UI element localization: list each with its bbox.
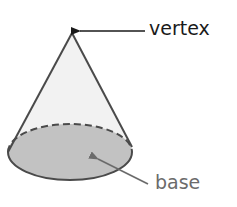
vertex-label: vertex	[149, 17, 210, 39]
base-label: base	[155, 171, 200, 193]
